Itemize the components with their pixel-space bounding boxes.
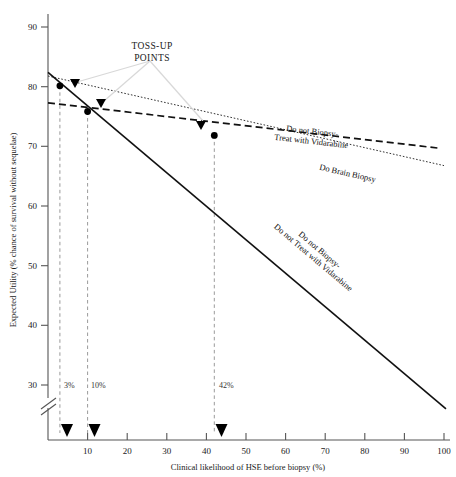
y-tick-label-80: 80 bbox=[28, 82, 38, 92]
threshold-label-3: 3% bbox=[64, 381, 75, 390]
y-axis-title: Expected Utility (% chance of survival w… bbox=[8, 132, 18, 327]
tossup-point-10-triangle-icon bbox=[96, 99, 106, 108]
x-tick-label-70: 70 bbox=[321, 446, 331, 456]
series-label-do-not-biopsy-do-not-treat: Do not Biopsy- Do not Treat with Vidarab… bbox=[272, 214, 361, 294]
y-tick-label-50: 50 bbox=[28, 261, 38, 271]
series-line-do-not-biopsy-do-not-treat bbox=[48, 72, 446, 408]
x-tick-label-20: 20 bbox=[123, 446, 133, 456]
threshold-label-42: 42% bbox=[219, 381, 234, 390]
svg-text:Do not Treat with Vidarabine: Do not Treat with Vidarabine bbox=[272, 221, 355, 293]
x-tick-label-50: 50 bbox=[242, 446, 252, 456]
x-axis-title: Clinical likelihood of HSE before biopsy… bbox=[171, 462, 326, 472]
svg-text:Do Brain Biopsy: Do Brain Biopsy bbox=[318, 162, 377, 185]
tossup-point-42-triangle-icon bbox=[196, 121, 206, 130]
x-tick-label-40: 40 bbox=[202, 446, 212, 456]
tossup-point-3-dot bbox=[57, 82, 64, 89]
x-tick-label-100: 100 bbox=[437, 446, 451, 456]
y-axis-break-mark-1 bbox=[41, 398, 56, 409]
threshold-marker-42-icon bbox=[216, 424, 228, 437]
series-line-do-brain-biopsy bbox=[48, 76, 444, 166]
y-tick-label-40: 40 bbox=[28, 320, 38, 330]
series-line-do-not-biopsy-treat bbox=[48, 103, 440, 149]
tossup-annotation-line2: POINTS bbox=[134, 53, 170, 63]
x-tick-label-80: 80 bbox=[360, 446, 370, 456]
threshold-marker-10-icon bbox=[89, 424, 101, 437]
threshold-marker-3-icon bbox=[61, 424, 73, 437]
x-tick-label-10: 10 bbox=[83, 446, 93, 456]
y-tick-label-90: 90 bbox=[28, 22, 38, 32]
svg-text:Expected Utility (% chance of: Expected Utility (% chance of survival w… bbox=[8, 132, 18, 327]
tossup-point-42-dot bbox=[211, 132, 218, 139]
threshold-label-10: 10% bbox=[91, 381, 106, 390]
tossup-point-10-dot bbox=[84, 108, 91, 115]
chart-canvas: 90 80 70 60 50 40 30 10 20 30 40 50 bbox=[0, 0, 456, 477]
x-axis: 10 20 30 40 50 60 70 80 90 100 bbox=[48, 433, 451, 456]
y-tick-label-60: 60 bbox=[28, 201, 38, 211]
x-tick-label-60: 60 bbox=[281, 446, 291, 456]
y-axis: 90 80 70 60 50 40 30 bbox=[28, 14, 56, 440]
threshold-axis-markers bbox=[61, 424, 228, 437]
tossup-point-3-triangle-icon bbox=[70, 79, 80, 88]
x-tick-label-90: 90 bbox=[400, 446, 410, 456]
y-tick-label-70: 70 bbox=[28, 141, 38, 151]
threshold-lines bbox=[60, 86, 214, 433]
tossup-annotation-line1: TOSS-UP bbox=[131, 41, 172, 51]
y-tick-label-30: 30 bbox=[28, 380, 38, 390]
chart-figure: 90 80 70 60 50 40 30 10 20 30 40 50 bbox=[0, 0, 456, 477]
tossup-points bbox=[57, 79, 218, 139]
series-label-do-brain-biopsy: Do Brain Biopsy bbox=[318, 162, 377, 185]
x-tick-label-30: 30 bbox=[162, 446, 172, 456]
